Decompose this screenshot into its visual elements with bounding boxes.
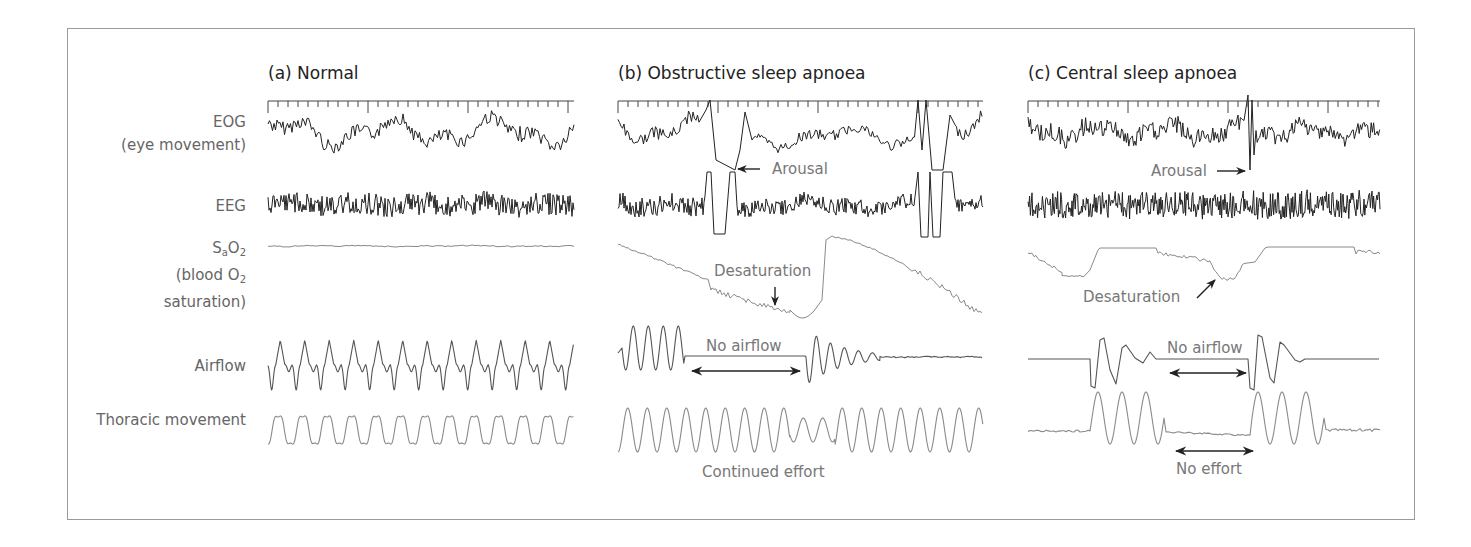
thoracic-trace-normal	[268, 416, 573, 444]
eog-trace-normal	[268, 111, 574, 153]
sao2-trace-normal	[268, 245, 574, 247]
time-ruler	[268, 101, 574, 113]
annotation-c-no-effort: No effort	[1176, 460, 1242, 478]
annotation-b-desaturation: Desaturation	[714, 262, 811, 280]
airflow-trace-obstructive	[618, 326, 982, 382]
arrow-up-right-icon	[1197, 280, 1215, 298]
annotation-c-desaturation: Desaturation	[1083, 288, 1180, 306]
time-ruler	[1028, 101, 1380, 113]
annotation-b-no-airflow: No airflow	[706, 337, 782, 355]
annotation-c-no-airflow: No airflow	[1167, 339, 1243, 357]
eeg-trace-normal	[268, 191, 574, 217]
time-rulers	[268, 101, 1380, 113]
time-ruler	[618, 101, 983, 113]
annotation-c-arousal: Arousal	[1151, 162, 1207, 180]
eog-trace-central	[1028, 95, 1380, 170]
airflow-trace-normal	[268, 340, 573, 390]
eeg-trace-obstructive	[618, 172, 983, 237]
thoracic-traces	[268, 392, 1380, 452]
sao2-trace-central	[1028, 247, 1380, 280]
eog-traces	[268, 95, 1380, 170]
annotation-b-continued-effort: Continued effort	[702, 463, 825, 481]
airflow-traces	[268, 326, 1379, 390]
eeg-trace-central	[1028, 190, 1380, 220]
annotation-b-arousal: Arousal	[772, 160, 828, 178]
thoracic-trace-obstructive	[618, 408, 983, 452]
thoracic-trace-central	[1028, 392, 1380, 444]
eeg-traces	[268, 172, 1380, 237]
sao2-traces	[268, 236, 1380, 318]
